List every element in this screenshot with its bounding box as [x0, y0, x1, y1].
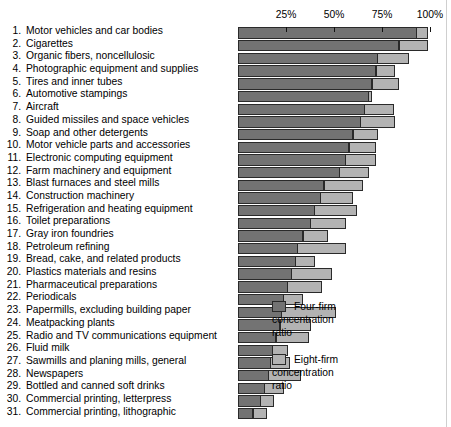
industry-label-text: Gray iron foundries [26, 228, 114, 241]
industry-label-row: 27.Sawmills and planing mills, general [0, 355, 232, 368]
bar-segment-four-firm [238, 129, 353, 140]
bar-row [238, 268, 438, 281]
industry-label-row: 19.Bread, cake, and related products [0, 253, 232, 266]
bar-segment-eight-firm [339, 167, 369, 178]
chart-page: 1.Motor vehicles and car bodies2.Cigaret… [0, 0, 451, 427]
bar-row [238, 243, 438, 256]
bar-row [238, 52, 438, 65]
industry-label-number: 23. [0, 304, 26, 317]
industry-label-number: 1. [0, 25, 26, 38]
bar-segment-eight-firm [291, 268, 332, 279]
industry-label-row: 15.Refrigeration and heating equipment [0, 203, 232, 216]
industry-label-number: 27. [0, 355, 26, 368]
legend-item: Four-firm concentration ratio [272, 300, 392, 339]
industry-label-text: Tires and inner tubes [26, 76, 122, 89]
industry-label-row: 5.Tires and inner tubes [0, 76, 232, 89]
bar-row [238, 205, 438, 218]
legend-item: Eight-firm concentration ratio [272, 353, 392, 392]
bar-segment-eight-firm [399, 40, 429, 51]
industry-label-number: 15. [0, 203, 26, 216]
bar-segment-four-firm [238, 180, 324, 191]
industry-label-text: Sawmills and planing mills, general [26, 355, 186, 368]
industry-label-row: 25.Radio and TV communications equipment [0, 330, 232, 343]
industry-label-text: Construction machinery [26, 190, 134, 203]
bar-segment-eight-firm [376, 65, 396, 76]
industry-label-row: 2.Cigarettes [0, 38, 232, 51]
x-axis-tick-label: 50% [324, 8, 345, 22]
industry-label-row: 3.Organic fibers, noncellulosic [0, 50, 232, 63]
industry-label-text: Pharmaceutical preparations [26, 279, 157, 292]
industry-label-text: Commercial printing, letterpress [26, 393, 171, 406]
industry-label-text: Bottled and canned soft drinks [26, 380, 165, 393]
bar-row [238, 230, 438, 243]
bar-row [238, 116, 438, 129]
legend-swatch-eight-firm [272, 354, 286, 365]
bar-segment-eight-firm [310, 218, 345, 229]
industry-label-text: Motor vehicle parts and accessories [26, 139, 190, 152]
industry-label-number: 14. [0, 190, 26, 203]
industry-label-row: 9.Soap and other detergents [0, 127, 232, 140]
x-axis-tick-labels: 25%50%75%100% [238, 8, 438, 24]
bar-row [238, 154, 438, 167]
bar-row [238, 90, 438, 103]
page-edge-rule [446, 0, 447, 427]
bar-segment-four-firm [238, 91, 369, 102]
industry-label-number: 12. [0, 165, 26, 178]
industry-label-row: 23.Papermills, excluding building paper [0, 304, 232, 317]
bar-segment-eight-firm [314, 205, 357, 216]
industry-label-number: 25. [0, 330, 26, 343]
industry-label-text: Toilet preparations [26, 215, 110, 228]
industry-label-number: 17. [0, 228, 26, 241]
bar-segment-four-firm [238, 205, 315, 216]
industry-label-text: Plastics materials and resins [26, 266, 156, 279]
industry-label-text: Soap and other detergents [26, 127, 148, 140]
industry-label-text: Papermills, excluding building paper [26, 304, 191, 317]
industry-label-number: 19. [0, 253, 26, 266]
industry-label-row: 16.Toilet preparations [0, 215, 232, 228]
industry-label-row: 31.Commercial printing, lithographic [0, 406, 232, 419]
industry-label-row: 14.Construction machinery [0, 190, 232, 203]
industry-label-number: 13. [0, 177, 26, 190]
industry-label-row: 13.Blast furnaces and steel mills [0, 177, 232, 190]
industry-label-row: 11.Electronic computing equipment [0, 152, 232, 165]
industry-label-text: Fluid milk [26, 342, 69, 355]
industry-label-row: 20.Plastics materials and resins [0, 266, 232, 279]
bar-row [238, 65, 438, 78]
bar-row [238, 192, 438, 205]
industry-label-number: 11. [0, 152, 26, 165]
bar-segment-four-firm [238, 78, 372, 89]
bar-segment-four-firm [238, 383, 265, 394]
bar-segment-eight-firm [295, 256, 315, 267]
industry-label-number: 31. [0, 406, 26, 419]
industry-label-number: 16. [0, 215, 26, 228]
bar-segment-four-firm [238, 281, 288, 292]
industry-label-number: 29. [0, 380, 26, 393]
industry-label-text: Refrigeration and heating equipment [26, 203, 193, 216]
bar-row [238, 103, 438, 116]
industry-label-row: 29.Bottled and canned soft drinks [0, 380, 232, 393]
industry-label-number: 8. [0, 114, 26, 127]
bar-segment-four-firm [238, 345, 273, 356]
industry-label-row: 12.Farm machinery and equipment [0, 165, 232, 178]
chart-legend: Four-firm concentration ratioEight-firm … [272, 300, 392, 406]
bar-segment-eight-firm [324, 180, 363, 191]
bar-segment-four-firm [238, 357, 271, 368]
bar-segment-eight-firm [303, 230, 329, 241]
bar-row [238, 78, 438, 91]
bar-segment-four-firm [238, 218, 311, 229]
industry-label-row: 4.Photographic equipment and supplies [0, 63, 232, 76]
industry-label-number: 20. [0, 266, 26, 279]
industry-label-row: 10.Motor vehicle parts and accessories [0, 139, 232, 152]
bar-segment-four-firm [238, 192, 321, 203]
industry-label-text: Petroleum refining [26, 241, 110, 254]
industry-label-text: Radio and TV communications equipment [26, 330, 217, 343]
industry-label-number: 4. [0, 63, 26, 76]
bar-segment-four-firm [238, 243, 298, 254]
industry-label-text: Periodicals [26, 291, 76, 304]
industry-label-text: Farm machinery and equipment [26, 165, 171, 178]
industry-label-text: Newspapers [26, 368, 83, 381]
industry-label-row: 24.Meatpacking plants [0, 317, 232, 330]
bar-row [238, 255, 438, 268]
legend-swatch-four-firm [272, 301, 286, 312]
industry-label-row: 18.Petroleum refining [0, 241, 232, 254]
